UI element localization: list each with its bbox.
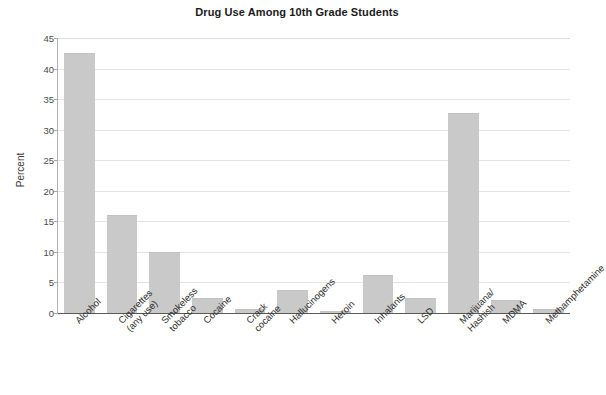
gridline — [58, 130, 570, 131]
y-tick-label: 45 — [8, 33, 54, 44]
y-tick-label: 5 — [8, 277, 54, 288]
gridline — [58, 38, 570, 39]
bar — [64, 53, 95, 313]
plot-area — [58, 38, 570, 313]
y-tick-label: 40 — [8, 63, 54, 74]
bar — [107, 215, 138, 313]
y-tick-label: 0 — [8, 308, 54, 319]
y-tick-label: 10 — [8, 246, 54, 257]
chart-title: Drug Use Among 10th Grade Students — [0, 6, 594, 18]
y-tick-label: 35 — [8, 94, 54, 105]
y-tick-label: 25 — [8, 155, 54, 166]
gridline — [58, 191, 570, 192]
y-tick-label: 15 — [8, 216, 54, 227]
bar — [448, 113, 479, 313]
y-tick-label: 30 — [8, 124, 54, 135]
y-tick-label: 20 — [8, 185, 54, 196]
gridline — [58, 160, 570, 161]
y-axis-ticks: 051015202530354045 — [0, 0, 54, 395]
gridline — [58, 69, 570, 70]
x-axis-labels: AlcoholCigarettes (any use)Smokeless tob… — [58, 315, 570, 395]
gridline — [58, 99, 570, 100]
